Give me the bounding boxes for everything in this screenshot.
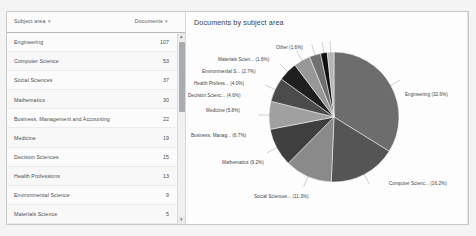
pie-slice-label: Decision Scienc... (4.6%) — [188, 93, 241, 98]
pie-slice-label: Medicine (5.8%) — [206, 108, 240, 113]
row-documents-value: 13 — [163, 173, 169, 179]
leader-line — [364, 174, 369, 184]
chart-title: Documents by subject area — [194, 18, 284, 27]
table-row[interactable]: Decision Sciences 15 — [7, 148, 185, 167]
leader-line — [322, 42, 324, 54]
pie-slice-label: Environmental S... (2.7%) — [202, 69, 256, 74]
table-row[interactable]: Health Professions 13 — [7, 167, 185, 186]
scrollbar-thumb[interactable] — [179, 42, 185, 112]
pie-slice-label: Health Profess... (4.0%) — [194, 81, 244, 86]
pie-slice-label: Mathematics (9.2%) — [222, 160, 264, 165]
panel-divider — [467, 12, 468, 224]
table-row[interactable]: Social Sciences 37 — [7, 71, 185, 90]
column-header-subject-area[interactable]: Subject area▾ — [14, 18, 51, 24]
leader-line — [304, 176, 309, 187]
column-header-documents[interactable]: Documents▾ — [135, 18, 168, 24]
row-documents-value: 5 — [166, 211, 169, 217]
table-body[interactable]: Engineering 107 Computer Science 53 Soci… — [7, 33, 185, 224]
row-documents-value: 22 — [163, 116, 169, 122]
sort-descending-icon[interactable]: ▾ — [165, 18, 168, 24]
table-vertical-scrollbar[interactable]: ▴ ▾ — [177, 33, 185, 224]
leader-line — [312, 44, 315, 55]
row-subject-label: Materials Science — [14, 211, 57, 217]
row-subject-label: Environmental Science — [14, 192, 70, 198]
row-documents-value: 30 — [163, 97, 169, 103]
table-row[interactable]: Medicine 19 — [7, 128, 185, 147]
leader-line — [330, 41, 331, 53]
row-documents-value: 9 — [166, 192, 169, 198]
screenshot-root: Subject area▾ Documents▾ Engineering 107… — [0, 0, 476, 236]
leader-line — [297, 51, 303, 61]
row-subject-label: Health Professions — [14, 173, 60, 179]
table-row[interactable]: Engineering 107 — [7, 33, 185, 52]
sort-descending-icon[interactable]: ▾ — [48, 18, 51, 24]
row-subject-label: Engineering — [14, 39, 43, 45]
pie-slice-label: Business, Manag... (6.7%) — [191, 133, 246, 138]
subject-area-table-panel: Subject area▾ Documents▾ Engineering 107… — [7, 12, 186, 224]
pie-slice-label: Other (1.6%) — [276, 45, 303, 50]
pie-slice-label: Social Sciences... (11.3%) — [254, 194, 309, 199]
row-documents-value: 53 — [163, 58, 169, 64]
row-documents-value: 19 — [163, 135, 169, 141]
pie-slice-label: Computer Scienc... (16.2%) — [389, 181, 447, 186]
row-documents-value: 37 — [163, 77, 169, 83]
scroll-up-arrow-icon[interactable]: ▴ — [178, 33, 185, 41]
documents-by-subject-chart-panel: Documents by subject area Engineering (3… — [186, 12, 468, 224]
column-header-subject-area-label: Subject area — [14, 18, 46, 24]
table-row[interactable]: Mathematics 30 — [7, 90, 185, 109]
scroll-down-arrow-icon[interactable]: ▾ — [178, 216, 185, 224]
table-row[interactable]: Materials Science 5 — [7, 205, 185, 224]
leader-line — [280, 64, 288, 72]
leader-line — [267, 147, 277, 152]
row-subject-label: Medicine — [14, 135, 36, 141]
pie-slice-group — [269, 52, 399, 182]
table-row[interactable]: Business, Management and Accounting 22 — [7, 109, 185, 128]
pie-chart-area: Engineering (32.6%)Computer Scienc... (1… — [186, 29, 464, 224]
row-documents-value: 15 — [163, 154, 169, 160]
column-header-documents-label: Documents — [135, 18, 163, 24]
pie-slice-label: Materials Scien... (1.6%) — [218, 57, 269, 62]
row-subject-label: Computer Science — [14, 58, 59, 64]
row-subject-label: Business, Management and Accounting — [14, 116, 110, 122]
row-subject-label: Decision Sciences — [14, 154, 59, 160]
pie-slice-label: Engineering (32.6%) — [405, 92, 448, 97]
row-subject-label: Mathematics — [14, 97, 45, 103]
table-header-row: Subject area▾ Documents▾ — [7, 12, 185, 33]
row-subject-label: Social Sciences — [14, 77, 53, 83]
leader-line — [390, 80, 400, 86]
table-row[interactable]: Computer Science 53 — [7, 52, 185, 71]
analytics-panel: Subject area▾ Documents▾ Engineering 107… — [6, 11, 469, 225]
leader-line — [265, 85, 276, 90]
row-documents-value: 107 — [160, 39, 169, 45]
table-row[interactable]: Environmental Science 9 — [7, 186, 185, 205]
